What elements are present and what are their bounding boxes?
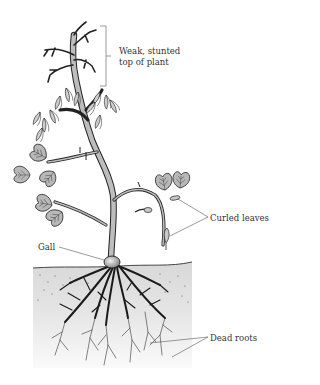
label-curled-leaves: Curled leaves: [210, 213, 269, 224]
wilted-upper-leaves: [32, 87, 120, 142]
label-line-2: top of plant: [119, 57, 180, 68]
top-bracket: [100, 26, 111, 86]
gall: [104, 256, 120, 268]
gall-leader: [59, 247, 104, 260]
curled-leader: [170, 199, 208, 236]
curled-leaves: [135, 195, 180, 250]
label-gall: Gall: [38, 242, 55, 253]
label-dead-roots: Dead roots: [210, 333, 257, 344]
label-line-1: Weak, stunted: [119, 46, 180, 57]
label-stunted-top: Weak, stunted top of plant: [119, 46, 180, 68]
